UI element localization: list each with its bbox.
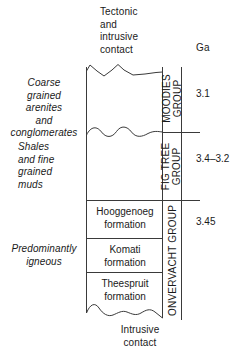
group-label-figtree: FIG TREE GROUP <box>163 132 181 200</box>
wavy-contact-bottom <box>87 305 163 318</box>
group-label-moodies-text: MOODIES GROUP <box>162 74 183 123</box>
bottom-contact-caption: Intrusive contact <box>95 324 185 349</box>
group-label-onverwacht-text: ONVERVACHT GROUP <box>167 205 178 316</box>
formation-label-hooggenoeg: Hooggenoeg formation <box>87 206 163 231</box>
formation-label-theespruit: Theespruit formation <box>87 278 163 303</box>
group-label-figtree-text: FIG TREE GROUP <box>162 142 183 190</box>
formation-label-komati: Komati formation <box>87 244 163 269</box>
group-label-onverwacht: ONVERVACHT GROUP <box>163 200 181 320</box>
wavy-contact-top <box>87 65 163 77</box>
stratigraphic-column-figure: Tectonic and intrusive contact Ga Coarse… <box>0 0 243 356</box>
age-value-onverwacht: 3.45 <box>196 216 242 229</box>
group-label-moodies: MOODIES GROUP <box>163 64 181 132</box>
wavy-contact-moodies-figtree <box>87 127 163 136</box>
age-value-moodies: 3.1 <box>196 88 242 101</box>
age-value-figtree: 3.4–3.2 <box>196 153 242 166</box>
